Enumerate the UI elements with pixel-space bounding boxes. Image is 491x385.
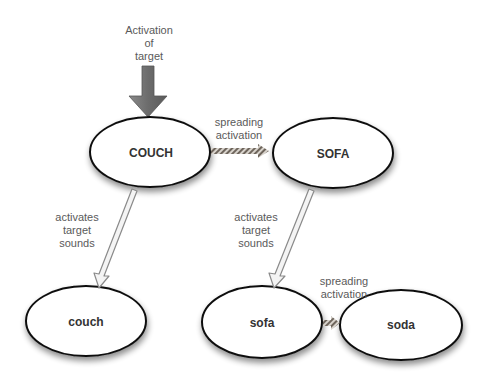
spreading-arrow-small-icon bbox=[323, 316, 340, 330]
spreading-activation-label-bottom: spreading activation bbox=[310, 275, 378, 301]
activation-down-arrow-icon bbox=[129, 66, 167, 117]
activates-target-sounds-label-left: activates target sounds bbox=[44, 211, 110, 250]
node-label-SOFA: SOFA bbox=[317, 147, 350, 161]
node-label-couch: couch bbox=[68, 315, 103, 329]
node-label-soda: soda bbox=[387, 318, 415, 332]
node-label-sofa: sofa bbox=[250, 316, 275, 330]
activates-target-sounds-label-right: activates target sounds bbox=[223, 211, 289, 250]
spreading-arrow-icon bbox=[211, 144, 269, 158]
diagram-canvas: Activation of target spreading activatio… bbox=[0, 0, 491, 385]
spreading-activation-label-top: spreading activation bbox=[205, 116, 273, 142]
activation-of-target-label: Activation of target bbox=[118, 24, 180, 63]
node-label-COUCH: COUCH bbox=[129, 146, 173, 160]
